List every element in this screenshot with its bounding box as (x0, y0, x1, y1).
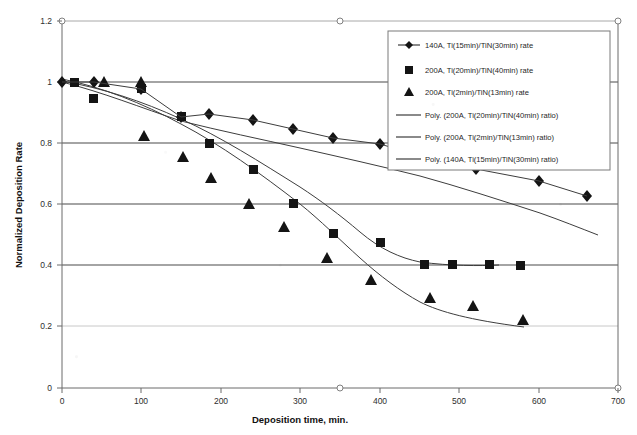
data-point (289, 199, 298, 208)
x-axis-title: Deposition time, min. (252, 414, 348, 425)
ytick-label-0.4: 0.4 (40, 260, 52, 270)
data-point (424, 292, 436, 303)
y-tick-marks (57, 21, 62, 388)
legend-label-1: 140A, Ti(15min)/TiN(30min) rate (425, 41, 533, 50)
data-point (321, 252, 333, 263)
data-point (177, 151, 189, 162)
ytick-label-1.0: 1 (47, 77, 52, 87)
xtick-label-600: 600 (532, 396, 546, 406)
data-point (365, 274, 377, 285)
xtick-label-100: 100 (134, 396, 148, 406)
y-axis-tick-labels: 1.2 1 0.8 0.6 0.4 0.2 0 (40, 16, 52, 393)
legend-label-6: Poly. (140A, Ti(15min)/TiN(30min) ratio) (425, 155, 559, 164)
xtick-label-400: 400 (373, 396, 387, 406)
ytick-label-0.8: 0.8 (40, 138, 52, 148)
corner-marker-top-mid (337, 18, 343, 24)
data-point (376, 238, 385, 247)
data-point (329, 229, 338, 238)
cropped-page-text (0, 0, 637, 4)
data-point (517, 314, 529, 325)
x-axis-tick-labels: 0 100 200 300 400 500 600 700 (60, 396, 626, 406)
corner-marker-top-right (615, 18, 621, 24)
corner-marker-bottom-mid (337, 385, 343, 391)
data-point (278, 221, 290, 232)
ytick-label-0: 0 (47, 383, 52, 393)
legend-label-5: Poly. (200A, Ti(2min)/TiN(13min) ratio) (425, 133, 555, 142)
data-point (205, 172, 217, 183)
data-point (89, 94, 98, 103)
ytick-label-0.2: 0.2 (40, 321, 52, 331)
data-point (420, 260, 429, 269)
legend-background (388, 31, 610, 170)
xtick-label-300: 300 (293, 396, 307, 406)
y-axis-title: Normalized Deposition Rate (13, 142, 24, 268)
data-point (467, 300, 479, 311)
xtick-label-200: 200 (214, 396, 228, 406)
xtick-label-0: 0 (60, 396, 65, 406)
legend-label-3: 200A, Ti(2min)/TiN(13min) rate (425, 88, 529, 97)
legend-entry-200A-20-40-rate[interactable]: 200A, Ti(20min)/TiN(40min) rate (405, 66, 533, 75)
deposition-rate-chart: 1.2 1 0.8 0.6 0.4 0.2 0 0 100 200 300 40… (0, 0, 637, 435)
ytick-label-0.6: 0.6 (40, 199, 52, 209)
figure-area: 1.2 1 0.8 0.6 0.4 0.2 0 0 100 200 300 40… (0, 0, 637, 435)
data-point (485, 260, 494, 269)
data-point (448, 260, 457, 269)
xtick-label-500: 500 (452, 396, 466, 406)
legend-label-4: Poly. (200A, Ti(20min)/TiN(40min) ratio) (425, 111, 559, 120)
data-point (138, 130, 150, 141)
data-point (516, 261, 525, 270)
data-point (205, 139, 214, 148)
xtick-label-700: 700 (611, 396, 625, 406)
square-marker-icon (405, 66, 413, 74)
data-point (249, 165, 258, 174)
chart-legend[interactable]: 140A, Ti(15min)/TiN(30min) rate 200A, Ti… (388, 31, 610, 170)
legend-label-2: 200A, Ti(20min)/TiN(40min) rate (425, 66, 533, 75)
ytick-label-1.2: 1.2 (40, 16, 52, 26)
